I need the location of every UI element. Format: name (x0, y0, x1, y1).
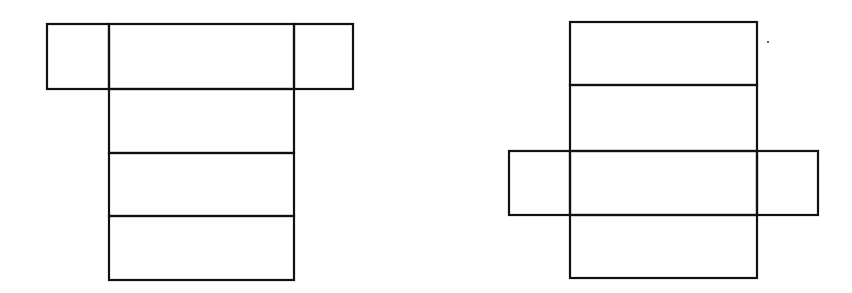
net-a-face-4 (109, 216, 294, 280)
net-b-face-4 (570, 215, 757, 278)
net-b-face-right-wing (757, 151, 818, 215)
net-b-face-2 (570, 85, 757, 151)
stray-dot (767, 41, 769, 43)
net-a-face-2 (109, 89, 294, 153)
net-a-face-left-wing (47, 24, 109, 89)
net-b (509, 22, 818, 278)
net-b-face-left-wing (509, 151, 570, 215)
diagram-canvas (0, 0, 852, 293)
net-b-face-1 (570, 22, 757, 85)
net-a-face-right-wing (294, 24, 353, 89)
net-a-face-top (109, 24, 294, 89)
net-a (47, 24, 353, 280)
net-b-face-3 (570, 151, 757, 215)
net-a-face-3 (109, 153, 294, 216)
